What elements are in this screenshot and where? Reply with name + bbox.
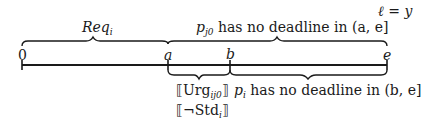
tick-label-b: b <box>226 47 235 61</box>
label-urg: ⟦Urgij0⟧ <box>176 83 229 100</box>
label-pi: pi has no deadline in (b, e] <box>234 83 421 100</box>
brace-pi <box>230 70 387 79</box>
brace-req <box>22 37 168 46</box>
label-not-std: ⟦¬Stdi⟧ <box>176 103 229 120</box>
top-annotation: ℓ = y <box>378 4 412 18</box>
tick-label-e: e <box>383 48 391 62</box>
label-req: Reqi <box>82 20 113 37</box>
label-pj0: pj0 has no deadline in (a, e] <box>196 20 389 37</box>
tick-label-a: a <box>164 48 172 62</box>
tick-label-0: 0 <box>18 48 27 62</box>
brace-urg <box>168 70 230 79</box>
brace-pj0 <box>168 37 387 46</box>
